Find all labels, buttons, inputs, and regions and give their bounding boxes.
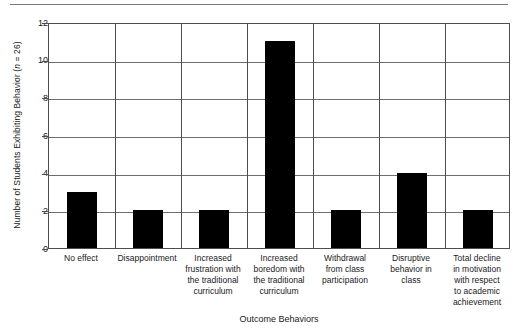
chart-figure: Number of Students Exhibiting Behavior (… [0, 0, 520, 334]
x-tick-label-line: behavior in [378, 264, 444, 275]
gridline-x-5 [379, 24, 380, 248]
x-tick-label-line: in motivation [444, 264, 510, 275]
x-tick-label-line: No effect [48, 253, 114, 264]
x-tick-label-line: frustration with [180, 264, 246, 275]
bar-3 [265, 41, 295, 248]
x-axis-tick-labels: No effectDisappointmentIncreasedfrustrat… [48, 253, 510, 315]
gridline-x-2 [181, 24, 182, 248]
gridline-x-6 [445, 24, 446, 248]
x-tick-label-line: boredom with [246, 264, 312, 275]
x-tick-label-line: Disruptive [378, 253, 444, 264]
x-tick-label-line: the traditional [180, 275, 246, 286]
x-tick-label-line: the traditional [246, 275, 312, 286]
x-axis-title: Outcome Behaviors [48, 314, 510, 324]
gridline-x-1 [115, 24, 116, 248]
x-tick-label-0: No effect [48, 253, 114, 264]
x-tick-label-line: achievement [444, 297, 510, 308]
x-tick-label-line: participation [312, 275, 378, 286]
bar-4 [331, 210, 361, 248]
x-tick-label-line: Disappointment [114, 253, 180, 264]
gridline-x-3 [247, 24, 248, 248]
y-axis-ticks: 024681012 [0, 0, 48, 334]
x-tick-label-3: Increasedboredom withthe traditionalcurr… [246, 253, 312, 297]
x-tick-label-line: Increased [246, 253, 312, 264]
x-tick-label-line: Total decline [444, 253, 510, 264]
bar-2 [199, 210, 229, 248]
bar-1 [133, 210, 163, 248]
x-tick-label-4: Withdrawalfrom classparticipation [312, 253, 378, 286]
gridline-x-4 [313, 24, 314, 248]
x-tick-label-1: Disappointment [114, 253, 180, 264]
x-tick-label-6: Total declinein motivationwith respectto… [444, 253, 510, 308]
x-tick-label-line: class [378, 275, 444, 286]
x-tick-label-line: with respect [444, 275, 510, 286]
x-tick-label-line: curriculum [246, 286, 312, 297]
bar-5 [397, 173, 427, 248]
x-tick-label-line: from class [312, 264, 378, 275]
plot-area [48, 23, 510, 249]
x-tick-label-line: Withdrawal [312, 253, 378, 264]
y-tick-mark-0 [42, 249, 48, 250]
top-divider-rule [10, 4, 508, 5]
x-tick-label-5: Disruptivebehavior inclass [378, 253, 444, 286]
bar-6 [463, 210, 493, 248]
x-tick-label-2: Increasedfrustration withthe traditional… [180, 253, 246, 297]
bar-0 [67, 192, 97, 249]
x-tick-label-line: Increased [180, 253, 246, 264]
x-tick-label-line: to academic [444, 286, 510, 297]
x-tick-label-line: curriculum [180, 286, 246, 297]
